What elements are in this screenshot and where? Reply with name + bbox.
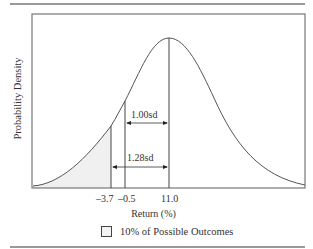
arrowhead-right-icon xyxy=(163,121,168,125)
legend-swatch xyxy=(101,226,112,237)
arrowhead-left-icon xyxy=(112,165,117,169)
x-tick-minus-3-7: –3.7 xyxy=(96,193,114,204)
x-tick-11: 11.0 xyxy=(161,193,178,204)
y-axis-label: Probability Density xyxy=(12,54,23,144)
legend: 10% of Possible Outcomes xyxy=(101,226,233,237)
legend-label: 10% of Possible Outcomes xyxy=(120,226,233,237)
arrowhead-right-icon xyxy=(163,165,168,169)
bottom-rule xyxy=(10,246,305,248)
x-axis-label: Return (%) xyxy=(0,208,295,219)
shaded-tail-area xyxy=(33,126,111,188)
arrowhead-left-icon xyxy=(126,121,131,125)
annotation-1sd: 1.00sd xyxy=(131,109,157,120)
x-tick-minus-0-5: –0.5 xyxy=(118,193,136,204)
annotation-128sd: 1.28sd xyxy=(127,152,153,163)
